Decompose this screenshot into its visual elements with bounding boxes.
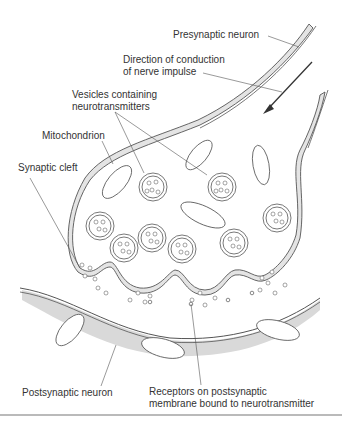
- label-receptors: Receptors on postsynaptic membrane bound…: [149, 386, 314, 410]
- label-postsynaptic-neuron: Postsynaptic neuron: [22, 387, 113, 399]
- label-vesicles: Vesicles containing neurotransmitters: [72, 89, 157, 113]
- label-vesicles-line1: Vesicles containing: [72, 89, 157, 101]
- label-presynaptic-neuron: Presynaptic neuron: [173, 29, 259, 41]
- label-synaptic-cleft: Synaptic cleft: [18, 162, 77, 174]
- label-mitochondrion: Mitochondrion: [42, 130, 105, 142]
- label-direction-line2: of nerve impulse: [123, 66, 225, 78]
- label-vesicles-line2: neurotransmitters: [72, 101, 157, 113]
- label-direction-of-conduction: Direction of conduction of nerve impulse: [123, 54, 225, 78]
- label-receptors-line1: Receptors on postsynaptic: [149, 386, 314, 398]
- label-receptors-line2: membrane bound to neurotransmitter: [149, 398, 314, 410]
- label-direction-line1: Direction of conduction: [123, 54, 225, 66]
